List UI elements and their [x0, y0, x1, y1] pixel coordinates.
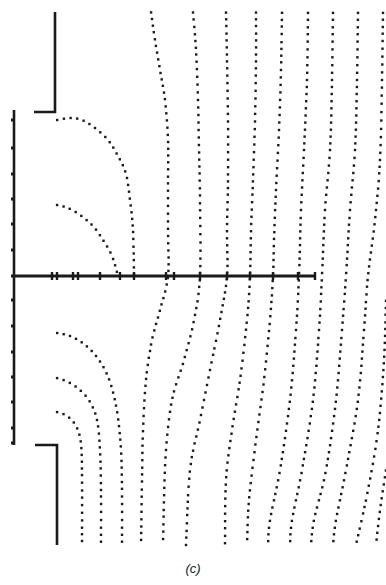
axis-tick	[297, 272, 299, 280]
plane-tick	[11, 442, 15, 445]
axis-tick	[272, 272, 274, 280]
plane-tick	[11, 351, 15, 354]
field-line-diagram	[0, 0, 386, 585]
plane-tick	[11, 249, 15, 252]
plane-tick	[11, 299, 15, 302]
boundary-tick-marks	[11, 119, 316, 445]
plane-tick	[11, 198, 15, 201]
caption-label: (c)	[185, 561, 200, 576]
field-line-1	[56, 117, 135, 275]
plane-tick	[11, 147, 15, 150]
axis-tick	[314, 272, 316, 280]
axis-tick	[77, 272, 79, 280]
plane-tick	[11, 401, 15, 404]
axis-tick	[56, 272, 58, 280]
figure-caption: (c)	[0, 561, 386, 576]
axis-tick	[226, 272, 228, 280]
plane-tick	[11, 427, 15, 430]
field-line-15	[356, 300, 386, 543]
field-line-9	[224, 11, 257, 544]
field-line-16	[375, 469, 386, 541]
field-line-3	[56, 332, 123, 543]
plane-tick	[11, 119, 15, 122]
dotted-field-lines	[56, 11, 386, 546]
upper-electrode-line	[34, 12, 55, 112]
axis-tick	[51, 272, 53, 280]
lower-electrode-line	[35, 445, 57, 545]
axis-tick	[173, 272, 175, 280]
plane-tick	[11, 275, 15, 278]
axis-tick	[72, 272, 74, 280]
field-line-2	[56, 204, 118, 273]
field-line-8	[185, 11, 229, 546]
axis-tick	[249, 272, 251, 280]
plane-tick	[11, 223, 15, 226]
plane-tick	[11, 376, 15, 379]
field-line-5	[56, 411, 83, 542]
field-line-13	[310, 12, 359, 543]
plane-tick	[11, 325, 15, 328]
field-line-14	[332, 12, 384, 543]
field-line-4	[56, 377, 102, 543]
axis-tick	[165, 272, 167, 280]
plane-tick	[11, 173, 15, 176]
axis-tick	[119, 272, 121, 280]
axis-tick	[199, 272, 201, 280]
axis-tick	[99, 272, 101, 280]
axis-tick	[133, 272, 135, 280]
